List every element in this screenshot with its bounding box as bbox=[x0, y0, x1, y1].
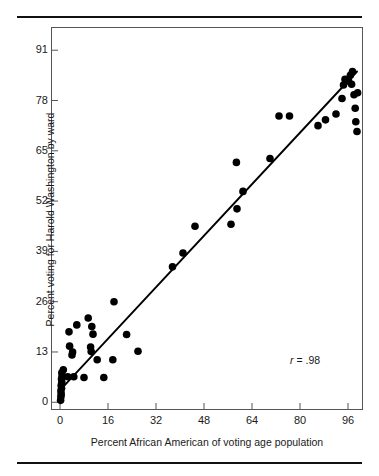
x-tick-label: 48 bbox=[184, 414, 224, 426]
correlation-value: = .98 bbox=[296, 354, 320, 366]
y-axis-title: Percent voting for Harold Washington by … bbox=[45, 100, 56, 340]
y-axis-title-wrapper: Percent voting for Harold Washington by … bbox=[22, 0, 36, 440]
correlation-symbol: r bbox=[290, 354, 294, 366]
top-rule bbox=[17, 16, 362, 18]
x-tick-label: 32 bbox=[136, 414, 176, 426]
x-axis-title: Percent African American of voting age p… bbox=[51, 436, 363, 448]
x-tick-label: 0 bbox=[40, 414, 80, 426]
plot-canvas bbox=[51, 27, 363, 410]
bottom-rule bbox=[17, 462, 362, 464]
figure-scatter-plot: 013263952657891 Percent voting for Harol… bbox=[0, 0, 379, 476]
x-axis-tick-labels: 0163248648096 bbox=[0, 414, 379, 430]
x-tick-label: 16 bbox=[88, 414, 128, 426]
x-tick-label: 80 bbox=[280, 414, 320, 426]
x-tick-label: 96 bbox=[328, 414, 368, 426]
x-tick-label: 64 bbox=[232, 414, 272, 426]
correlation-annotation: r = .98 bbox=[290, 354, 320, 366]
